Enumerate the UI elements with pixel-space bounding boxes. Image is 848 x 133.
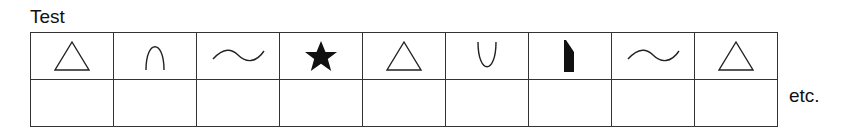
answer-cell-7[interactable]: [529, 80, 612, 127]
answer-cell-1[interactable]: [31, 80, 114, 127]
test-title: Test: [30, 6, 65, 28]
symbol-cell-1: [31, 33, 114, 80]
symbol-grid: [30, 32, 778, 127]
star-filled-icon: [301, 39, 341, 73]
answer-cell-2[interactable]: [114, 80, 197, 127]
symbol-cell-6: [446, 33, 529, 80]
triangle-outline-icon: [384, 39, 424, 73]
symbol-row: [31, 33, 778, 80]
symbol-cell-8: [612, 33, 695, 80]
answer-row: [31, 80, 778, 127]
symbol-cell-2: [114, 33, 197, 80]
symbol-cell-4: [280, 33, 363, 80]
etc-label: etc.: [789, 85, 820, 107]
answer-cell-3[interactable]: [197, 80, 280, 127]
answer-cell-9[interactable]: [695, 80, 778, 127]
wave-icon: [210, 39, 266, 73]
symbol-cell-3: [197, 33, 280, 80]
beveled-block-icon: [550, 38, 590, 74]
triangle-outline-icon: [52, 39, 92, 73]
triangle-outline-icon: [716, 39, 756, 73]
answer-cell-5[interactable]: [363, 80, 446, 127]
wave-icon: [625, 39, 681, 73]
answer-cell-8[interactable]: [612, 80, 695, 127]
symbol-cell-7: [529, 33, 612, 80]
arch-down-icon: [467, 39, 507, 73]
answer-cell-4[interactable]: [280, 80, 363, 127]
symbol-cell-9: [695, 33, 778, 80]
answer-cell-6[interactable]: [446, 80, 529, 127]
symbol-cell-5: [363, 33, 446, 80]
arch-up-icon: [135, 39, 175, 73]
